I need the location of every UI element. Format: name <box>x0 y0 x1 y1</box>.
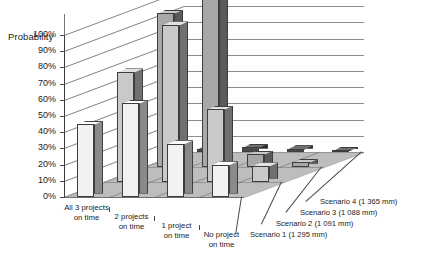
bar-s2-c4 <box>252 166 269 182</box>
y-tick-label-90: 90% <box>22 45 56 55</box>
bar-s1-c1 <box>77 124 94 197</box>
bar-front-face <box>287 149 304 152</box>
bar-s1-c2 <box>122 103 139 197</box>
bar-front-face <box>167 144 184 197</box>
y-tick-mark-100 <box>60 35 65 36</box>
scenario-label-2: Scenario 2 (1 091 mm) <box>276 219 353 228</box>
bar-side-face <box>184 140 193 193</box>
bar-front-face <box>122 103 139 197</box>
x-tick-mark-2 <box>154 216 155 221</box>
bar-s4-c4 <box>332 150 349 152</box>
y-tick-mark-10 <box>60 181 65 182</box>
y-tick-label-50: 50% <box>22 110 56 120</box>
y-tick-label-80: 80% <box>22 61 56 71</box>
x-tick-mark-3 <box>199 225 200 230</box>
y-tick-label-20: 20% <box>22 159 56 169</box>
x-tick-mark-1 <box>109 207 110 212</box>
y-tick-mark-70 <box>60 84 65 85</box>
scenario-label-1: Scenario 1 (1 295 mm) <box>250 230 327 239</box>
bar-s4-c3 <box>287 149 304 152</box>
bar-front-face <box>292 162 309 167</box>
bar-side-face <box>94 121 103 194</box>
y-axis-title: Probability <box>8 31 53 42</box>
y-tick-mark-90 <box>60 51 65 52</box>
y-tick-label-0: 0% <box>22 191 56 201</box>
scenario-label-3: Scenario 3 (1 088 mm) <box>300 208 377 217</box>
bar-front-face <box>212 165 229 197</box>
bar-front-face <box>77 124 94 197</box>
floor-row-line-0 <box>64 197 244 198</box>
scenario-label-4: Scenario 4 (1 365 mm) <box>320 197 397 206</box>
bar-front-face <box>252 166 269 182</box>
y-tick-mark-20 <box>60 165 65 166</box>
y-tick-mark-0 <box>60 197 65 198</box>
y-tick-mark-30 <box>60 148 65 149</box>
x-category-line: on time <box>178 240 266 250</box>
y-tick-mark-80 <box>60 67 65 68</box>
bar-side-face <box>229 161 238 193</box>
y-tick-mark-50 <box>60 116 65 117</box>
y-tick-label-30: 30% <box>22 142 56 152</box>
bar-s3-c4 <box>292 162 309 167</box>
y-tick-mark-40 <box>60 132 65 133</box>
bar-side-face <box>139 100 148 194</box>
chart-canvas: 0%10%20%30%40%50%60%70%80%90%100% Probab… <box>0 0 426 268</box>
bar-front-face <box>332 150 349 152</box>
y-tick-label-60: 60% <box>22 94 56 104</box>
bar-s1-c4 <box>212 165 229 197</box>
y-tick-label-10: 10% <box>22 175 56 185</box>
bar-s1-c3 <box>167 144 184 197</box>
y-tick-label-70: 70% <box>22 78 56 88</box>
y-tick-mark-60 <box>60 100 65 101</box>
y-tick-label-40: 40% <box>22 126 56 136</box>
